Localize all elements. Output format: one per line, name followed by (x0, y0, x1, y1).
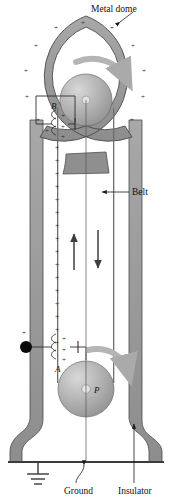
svg-text:+: + (61, 112, 65, 120)
svg-text:+: + (130, 116, 134, 124)
svg-text:+: + (55, 208, 59, 217)
svg-text:+: + (55, 143, 59, 152)
svg-text:+: + (55, 247, 59, 256)
van-de-graaff-figure: + + + + + + + + + + + + B + (0, 0, 172, 500)
svg-text:+: + (62, 335, 66, 343)
svg-text:+: + (141, 93, 145, 101)
terminal-charge-label: + (22, 329, 26, 337)
svg-text:+: + (55, 260, 59, 269)
svg-text:+: + (142, 67, 146, 75)
svg-text:+: + (34, 42, 38, 50)
insulator-column-right (129, 120, 162, 462)
svg-text:+: + (62, 356, 66, 364)
terminal-electrode (20, 341, 32, 353)
svg-text:+: + (36, 116, 40, 124)
metal-dome-text: Metal dome (91, 4, 137, 14)
insulator-column-left (10, 120, 43, 462)
svg-text:+: + (24, 67, 28, 75)
comb-upper-label: B (51, 101, 57, 111)
svg-text:+: + (81, 19, 85, 27)
lower-pulley-label: P (93, 385, 100, 395)
svg-text:+: + (55, 325, 59, 334)
svg-text:+: + (55, 299, 59, 308)
svg-text:+: + (55, 312, 59, 321)
label-metal-dome: Metal dome (91, 4, 137, 22)
belt-text: Belt (132, 187, 148, 197)
svg-text:+: + (55, 273, 59, 282)
svg-text:+: + (55, 182, 59, 191)
ground-symbol (27, 462, 49, 484)
insulator-text: Insulator (118, 486, 153, 496)
svg-text:+: + (55, 195, 59, 204)
svg-text:+: + (54, 24, 58, 32)
svg-text:+: + (55, 286, 59, 295)
svg-text:+: + (131, 42, 135, 50)
svg-text:+: + (110, 24, 114, 32)
svg-text:+: + (61, 133, 65, 141)
svg-text:+: + (55, 234, 59, 243)
svg-text:+: + (25, 93, 29, 101)
svg-text:+: + (61, 123, 65, 131)
ground-text: Ground (64, 486, 93, 496)
comb-lower-label: A (54, 364, 61, 374)
svg-text:+: + (62, 346, 66, 354)
svg-text:+: + (55, 169, 59, 178)
label-ground: Ground (64, 465, 93, 496)
svg-text:+: + (55, 221, 59, 230)
svg-text:+: + (45, 127, 49, 135)
svg-text:+: + (55, 156, 59, 165)
